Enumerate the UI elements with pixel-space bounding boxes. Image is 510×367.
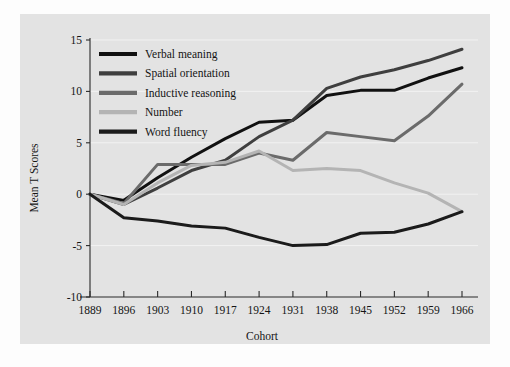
legend-label-0: Verbal meaning (145, 48, 218, 61)
legend: Verbal meaningSpatial orientationInducti… (99, 48, 236, 139)
legend-label-4: Word fluency (145, 126, 208, 139)
x-tick-label-1959: 1959 (417, 304, 440, 316)
x-tick-labels: 1889189619031910191719241931193819451952… (79, 304, 474, 316)
legend-label-1: Spatial orientation (145, 67, 230, 80)
x-tick-label-1938: 1938 (315, 304, 338, 316)
x-tick-label-1924: 1924 (248, 304, 271, 316)
axis-lines (80, 38, 478, 297)
y-tick-label-5: 5 (76, 137, 82, 149)
x-tick-label-1952: 1952 (383, 304, 406, 316)
y-tick-label-0: 0 (76, 188, 82, 200)
y-tick-labels: 151050-5-10 (67, 34, 83, 303)
y-axis-title: Mean T Scores (28, 143, 40, 213)
x-tick-label-1903: 1903 (146, 304, 169, 316)
x-axis-title: Cohort (246, 330, 279, 342)
y-tick-label--5: -5 (72, 240, 82, 252)
chart-figure: 151050-5-10 1889189619031910191719241931… (0, 0, 510, 367)
x-tick-label-1910: 1910 (180, 304, 203, 316)
x-tick-label-1966: 1966 (451, 304, 474, 316)
legend-label-2: Inductive reasoning (145, 87, 236, 100)
y-tick-label--10: -10 (67, 291, 83, 303)
x-tick-label-1945: 1945 (349, 304, 372, 316)
series-line-word-fluency (90, 194, 462, 245)
y-tick-label-15: 15 (71, 34, 83, 46)
x-tick-label-1931: 1931 (281, 304, 304, 316)
series-line-number (90, 151, 462, 212)
x-tick-marks (90, 291, 462, 297)
x-tick-label-1896: 1896 (112, 304, 135, 316)
line-chart: 151050-5-10 1889189619031910191719241931… (0, 0, 510, 367)
y-tick-label-10: 10 (71, 85, 83, 97)
x-tick-label-1889: 1889 (79, 304, 102, 316)
x-tick-label-1917: 1917 (214, 304, 237, 316)
legend-label-3: Number (145, 106, 183, 118)
